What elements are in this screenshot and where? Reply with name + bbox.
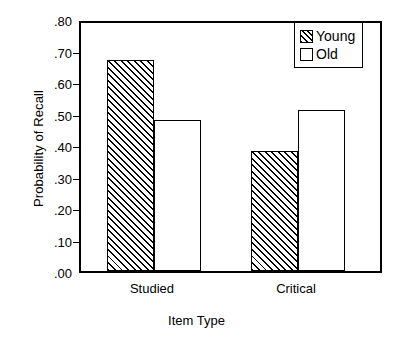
bar-young-studied [107, 60, 154, 271]
y-axis-tick-mark [73, 147, 80, 148]
x-axis-title: Item Type [0, 313, 393, 328]
y-axis-tick-label: .60 [34, 78, 72, 91]
bar-old-critical [298, 110, 345, 271]
y-axis-tick-mark [73, 179, 80, 180]
y-axis-tick-label: .40 [34, 141, 72, 154]
y-axis-tick-mark [73, 53, 80, 54]
x-axis-tick-label-studied: Studied [130, 282, 174, 296]
y-axis-tick-label: .70 [34, 46, 72, 59]
legend-item-young: Young [300, 27, 355, 45]
chart-legend: Young Old [294, 22, 363, 68]
y-axis-tick-label: .50 [34, 109, 72, 122]
bar-old-studied [154, 120, 201, 271]
y-axis-tick-mark [73, 116, 80, 117]
legend-swatch-young-icon [300, 30, 313, 43]
legend-label-young: Young [316, 29, 355, 43]
y-axis-tick-mark [73, 84, 80, 85]
legend-swatch-old-icon [300, 48, 313, 61]
bar-chart-figure: Probability of Recall .00.10.20.30.40.50… [0, 0, 393, 348]
legend-label-old: Old [316, 47, 338, 61]
y-axis-tick-label: .80 [34, 15, 72, 28]
y-axis-tick-mark [73, 210, 80, 211]
x-axis-tick-label-critical: Critical [276, 282, 316, 296]
y-axis-tick-label: .20 [34, 204, 72, 217]
bar-young-critical [251, 151, 298, 271]
y-axis-tick-label: .00 [34, 267, 72, 280]
y-axis-tick-label: .10 [34, 235, 72, 248]
y-axis-tick-label: .30 [34, 172, 72, 185]
y-axis-tick-mark [73, 242, 80, 243]
legend-item-old: Old [300, 45, 355, 63]
y-axis-tick-labels: .00.10.20.30.40.50.60.70.80 [34, 0, 72, 348]
